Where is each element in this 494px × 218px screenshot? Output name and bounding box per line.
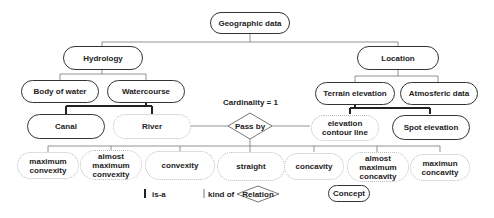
node-terrain-elevation: Terrain elevation [315, 82, 395, 105]
node-hydrology: Hydrology [63, 46, 143, 70]
node-maximun-concavity: maximun concavity [410, 154, 470, 181]
node-geographic-data: Geographic data [210, 12, 290, 34]
node-watercourse: Watercourse [107, 80, 185, 103]
legend-kind-of: kind of [208, 190, 234, 199]
node-body-of-water: Body of water [21, 80, 99, 103]
cardinality-label: Cardinality = 1 [223, 98, 278, 107]
node-straight: straight [217, 152, 285, 181]
node-atmosferic-data: Atmosferic data [400, 82, 478, 105]
node-location: Location [357, 46, 439, 70]
node-spot-elevation: Spot elevation [392, 115, 470, 140]
node-river: River [113, 114, 191, 139]
node-almost-maximum-convexity: almost maximum convexity [80, 150, 142, 180]
node-almost-maximum-concavity: almost maximum concavity [347, 152, 409, 182]
node-maximum-convexity: maximum convexity [17, 152, 79, 179]
node-elevation-contour-line: elevation contour line [311, 115, 379, 141]
legend-is-a: is-a [152, 190, 166, 199]
legend-concept: Concept [328, 185, 370, 202]
legend-relation: Relation [238, 188, 278, 200]
relation-pass-by: Pass by [228, 120, 272, 132]
node-concavity: concavity [284, 153, 344, 180]
node-convexity: convexity [145, 151, 215, 180]
node-canal: Canal [27, 114, 105, 139]
